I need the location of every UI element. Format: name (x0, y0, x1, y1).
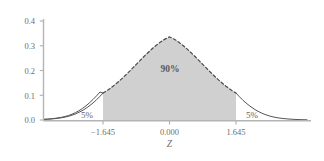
x-tick-label-negative-1.645: −1.645 (81, 127, 125, 137)
normal-distribution-figure: 0.4 0.3 0.2 0.1 0.0 −1.645 0.000 1.645 Z… (0, 0, 324, 161)
tail-label-right-5-percent: 5% (238, 110, 266, 120)
x-tick-label-zero: 0.000 (148, 127, 192, 137)
tail-label-left-5-percent: 5% (73, 110, 101, 120)
y-tick-label-0.0: 0.0 (9, 115, 35, 125)
x-axis-title: Z (150, 139, 190, 149)
shaded-area-90-percent (103, 37, 236, 120)
x-tick-label-positive-1.645: 1.645 (214, 127, 258, 137)
y-tick-label-0.4: 0.4 (9, 16, 35, 26)
y-tick-label-0.3: 0.3 (9, 41, 35, 51)
y-tick-label-0.2: 0.2 (9, 66, 35, 76)
y-tick-label-0.1: 0.1 (9, 91, 35, 101)
center-area-label-90-percent: 90% (155, 64, 185, 74)
